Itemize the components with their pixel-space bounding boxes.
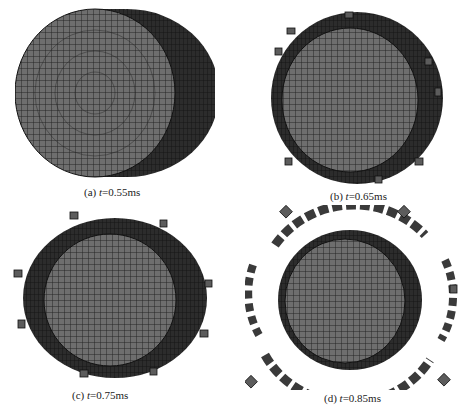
- dispersed-fragments-graphic: [245, 205, 460, 390]
- panel-c-expanding: [10, 210, 220, 380]
- mesh-cylinder-graphic: [15, 8, 215, 178]
- caption-a: (a) t=0.55ms: [84, 186, 140, 198]
- caption-d: (d) t=0.85ms: [324, 392, 381, 404]
- caption-c: (c) t=0.75ms: [72, 389, 128, 401]
- expanding-fragments-graphic: [10, 210, 220, 380]
- panel-b-fragmenting: [265, 8, 450, 188]
- panel-d-dispersed: [245, 205, 460, 390]
- panel-a-intact-cylinder: [15, 8, 215, 178]
- fragmenting-mesh-graphic: [265, 8, 450, 188]
- caption-b: (b) t=0.65ms: [330, 190, 387, 202]
